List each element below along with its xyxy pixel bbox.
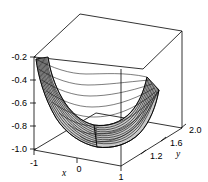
box-edge-top-right	[143, 31, 182, 69]
z-tick-label-3: -0.6	[11, 98, 27, 108]
y-axis-ticks: 1.2 1.6 2.0 y	[141, 124, 202, 161]
y-tick-label-3: 2.0	[189, 125, 202, 135]
x-tick-label-1: -1	[30, 158, 38, 168]
y-tick-label-1: 1.2	[150, 151, 163, 161]
y-tick-mark	[141, 150, 146, 154]
z-axis-ticks: -0.2 -0.4 -0.6 -0.8 -1.0	[11, 52, 36, 154]
x-tick-label-2: 0	[76, 164, 81, 174]
surface-plot-figure: -0.2 -0.4 -0.6 -0.8 -1.0 -1 0 1 x 1.2 1.…	[0, 0, 208, 182]
y-tick-mark	[161, 137, 166, 141]
surface-right-wing-fill	[94, 77, 159, 147]
x-axis-ticks: -1 0 1 x	[30, 150, 124, 182]
plot-canvas: -0.2 -0.4 -0.6 -0.8 -1.0 -1 0 1 x 1.2 1.…	[0, 0, 208, 182]
z-tick-label-2: -0.4	[11, 75, 27, 85]
z-tick-label-5: -1.0	[11, 144, 27, 154]
x-axis-title: x	[61, 168, 67, 178]
box-edge-top-left	[34, 14, 80, 57]
y-tick-label-2: 1.6	[170, 138, 183, 148]
z-tick-label-1: -0.2	[11, 52, 27, 62]
box-edge-top-rear	[80, 14, 182, 31]
z-tick-label-4: -0.8	[11, 121, 27, 131]
x-tick-label-3: 1	[118, 172, 123, 182]
y-axis-title: y	[175, 149, 181, 159]
